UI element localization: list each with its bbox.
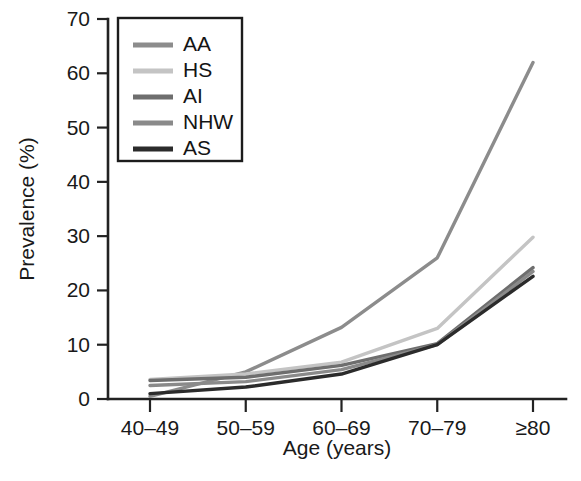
x-axis-title: Age (years) [283, 436, 392, 459]
legend-label-AS: AS [183, 136, 211, 159]
y-axis-title: Prevalence (%) [15, 137, 38, 281]
legend-label-NHW: NHW [183, 110, 233, 133]
y-tick-label-40: 40 [67, 170, 90, 193]
y-tick-marks [97, 19, 108, 399]
x-axis: 40–4950–5960–6970–79≥80 Age (years) [108, 399, 566, 459]
x-tick-label-0: 40–49 [121, 416, 179, 439]
legend-label-AA: AA [183, 32, 211, 55]
prevalence-by-age-line-chart: 010203040506070 Prevalence (%) 40–4950–5… [0, 0, 581, 481]
x-tick-label-1: 50–59 [217, 416, 275, 439]
y-tick-label-0: 0 [78, 387, 90, 410]
y-tick-label-50: 50 [67, 116, 90, 139]
x-tick-label-4: ≥80 [516, 416, 551, 439]
series-line-HS [150, 237, 533, 379]
legend-border [118, 18, 242, 161]
y-tick-labels: 010203040506070 [67, 7, 90, 410]
y-tick-label-70: 70 [67, 7, 90, 30]
legend-label-AI: AI [183, 84, 203, 107]
chart-figure: 010203040506070 Prevalence (%) 40–4950–5… [0, 0, 581, 481]
y-tick-label-60: 60 [67, 61, 90, 84]
legend: AAHSAINHWAS [118, 18, 242, 161]
y-tick-label-20: 20 [67, 278, 90, 301]
series-line-AI [150, 268, 533, 381]
y-axis: 010203040506070 Prevalence (%) [15, 7, 108, 410]
legend-label-HS: HS [183, 58, 212, 81]
y-tick-label-30: 30 [67, 224, 90, 247]
y-tick-label-10: 10 [67, 333, 90, 356]
x-tick-label-3: 70–79 [408, 416, 466, 439]
x-tick-marks [150, 399, 533, 412]
